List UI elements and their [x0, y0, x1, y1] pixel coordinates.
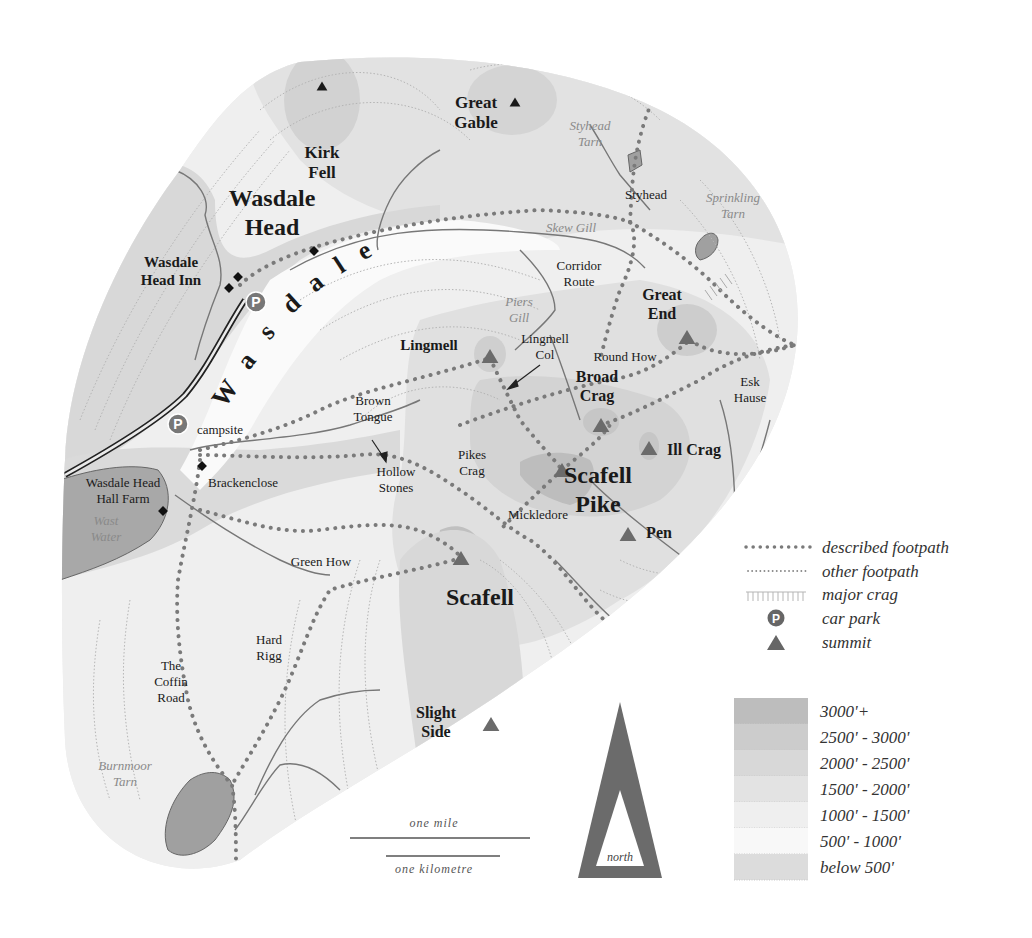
legend-item-car-park: P car park: [768, 609, 881, 628]
legend-symbols: described footpath other footpath major …: [746, 538, 949, 652]
legend-band-1500: 1500' - 2000': [734, 776, 910, 802]
north-arrow: north: [578, 702, 662, 878]
wasdale-map: Wasdale PP KirkFellGreatGableStyheadTarn…: [0, 0, 1032, 938]
svg-text:P: P: [173, 416, 182, 432]
label-hard-rigg: HardRigg: [256, 632, 282, 663]
label-wast-water: WastWater: [91, 513, 123, 544]
label-mickledore: Mickledore: [508, 507, 568, 522]
major-crag-icon: [746, 592, 806, 601]
legend-band-below500: below 500': [734, 854, 894, 880]
band-1000-swatch: [734, 802, 808, 828]
label-broad-crag: BroadCrag: [576, 368, 618, 405]
legend-item-major-crag: major crag: [746, 585, 898, 604]
label-wasdale-head-hall-farm: Wasdale HeadHall Farm: [86, 475, 161, 506]
legend-band-2500: 2500' - 3000': [734, 724, 910, 750]
label-lingmell: Lingmell: [400, 337, 458, 353]
legend-band-1000: 1000' - 1500': [734, 802, 910, 828]
label-skew-gill: Skew Gill: [546, 220, 597, 235]
car-park-wasdale-head: P: [246, 292, 266, 312]
car-park-campsite: P: [168, 414, 188, 434]
label-piers-gill: PiersGill: [504, 294, 532, 325]
label-round-how: Round How: [593, 349, 657, 364]
label-kirk-fell: KirkFell: [305, 143, 340, 182]
label-pen: Pen: [646, 524, 672, 541]
svg-text:below 500': below 500': [820, 858, 894, 877]
legend-item-other-footpath: other footpath: [748, 562, 919, 581]
scale-km-label: one kilometre: [395, 862, 473, 876]
band-below500-swatch: [734, 854, 808, 880]
legend-height-bands: 3000'+2500' - 3000'2000' - 2500'1500' - …: [734, 698, 910, 880]
svg-text:summit: summit: [822, 633, 872, 652]
svg-text:2000' - 2500': 2000' - 2500': [820, 754, 910, 773]
label-ill-crag: Ill Crag: [667, 441, 721, 459]
band-2500-swatch: [734, 724, 808, 750]
svg-text:500' - 1000': 500' - 1000': [820, 832, 901, 851]
legend-band-2000: 2000' - 2500': [734, 750, 910, 776]
label-great-gable: GreatGable: [454, 93, 498, 132]
legend-item-summit: summit: [767, 633, 872, 652]
svg-text:car park: car park: [822, 609, 881, 628]
svg-text:P: P: [251, 294, 260, 310]
svg-text:1000' - 1500': 1000' - 1500': [820, 806, 910, 825]
label-campsite: campsite: [197, 422, 243, 437]
svg-text:other footpath: other footpath: [822, 562, 919, 581]
svg-text:2500' - 3000': 2500' - 3000': [820, 728, 910, 747]
label-brown-tongue: BrownTongue: [354, 393, 393, 424]
svg-text:P: P: [772, 612, 780, 626]
legend-band-500: 500' - 1000': [734, 828, 901, 854]
svg-text:1500' - 2000': 1500' - 2000': [820, 780, 910, 799]
kirk-fell-high-ground: [284, 50, 360, 150]
svg-text:3000'+: 3000'+: [819, 702, 869, 721]
svg-text:described footpath: described footpath: [822, 538, 949, 557]
band-2000-swatch: [734, 750, 808, 776]
band-3000-swatch: [734, 698, 808, 724]
legend-item-described-footpath: described footpath: [746, 538, 949, 557]
label-green-how: Green How: [291, 554, 352, 569]
slight-side-summit-icon: [483, 717, 500, 731]
label-brackenclose: Brackenclose: [208, 475, 278, 490]
scale-mile-label: one mile: [410, 816, 459, 830]
band-500-swatch: [734, 828, 808, 854]
label-hollow-stones: HollowStones: [377, 464, 417, 495]
legend-band-3000: 3000'+: [734, 698, 869, 724]
north-label: north: [607, 850, 633, 864]
scale-bar: one mile one kilometre: [350, 816, 530, 876]
band-1500-swatch: [734, 776, 808, 802]
summit-icon: [767, 635, 785, 650]
label-scafell: Scafell: [446, 584, 514, 610]
label-styhead: Styhead: [625, 187, 667, 202]
label-pikes-crag: PikesCrag: [458, 447, 486, 478]
svg-text:major crag: major crag: [822, 585, 898, 604]
